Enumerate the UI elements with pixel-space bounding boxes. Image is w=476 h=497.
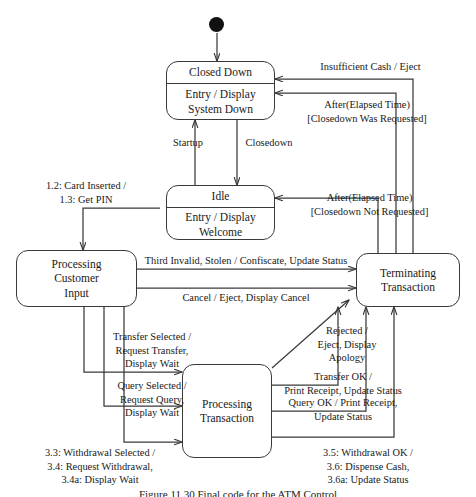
- label-transfer-ok: Transfer OK / Print Receipt, Update Stat…: [272, 370, 414, 397]
- state-terminating-transaction[interactable]: Terminating Transaction: [356, 253, 460, 307]
- figure-caption: Figure 11.30 Final code for the ATM Cont…: [0, 488, 476, 497]
- state-closed-down[interactable]: Closed Down Entry / Display System Down: [166, 61, 275, 120]
- label-transfer-selected-line3: Display Wait: [125, 358, 179, 369]
- initial-state-dot: [209, 17, 224, 32]
- label-card-inserted-line1: 1.2: Card Inserted /: [46, 180, 126, 191]
- label-withdrawal-ok-line1: 3.5: Withdrawal OK /: [323, 447, 413, 458]
- label-closedown-line1: Closedown: [246, 137, 293, 148]
- label-third-invalid-line1: Third Invalid, Stolen / Confiscate, Upda…: [145, 255, 348, 266]
- state-diagram-canvas: Closed Down Entry / Display System Down …: [0, 0, 476, 497]
- label-withdrawal-selected-line3: 3.4a: Display Wait: [61, 474, 138, 485]
- label-withdrawal-selected: 3.3: Withdrawal Selected / 3.4: Request …: [12, 446, 188, 487]
- label-rejected-line2: Eject, Display: [318, 339, 377, 350]
- label-after-elapsed-closedown-requested: After(Elapsed Time) [Closedown Was Reque…: [281, 98, 453, 125]
- tt-line2: Transaction: [381, 281, 435, 293]
- label-withdrawal-ok-line2: 3.6: Dispense Cash,: [327, 461, 410, 472]
- label-rejected: Rejected / Eject, Display Apology: [295, 324, 399, 365]
- state-processing-customer-input[interactable]: Processing Customer Input: [16, 250, 137, 307]
- label-query-ok-line2: Update Status: [314, 411, 372, 422]
- label-rejected-line1: Rejected /: [326, 325, 368, 336]
- wire-card-inserted: [83, 208, 160, 250]
- label-query-selected-line3: Display Wait: [125, 407, 179, 418]
- label-closedown: Closedown: [227, 136, 311, 150]
- label-query-selected-line1: Query Selected /: [117, 380, 186, 391]
- state-terminating-transaction-title: Terminating Transaction: [375, 266, 441, 295]
- state-closed-down-activity-line1: Entry / Display: [185, 88, 255, 100]
- label-card-inserted: 1.2: Card Inserted / 1.3: Get PIN: [12, 179, 160, 206]
- label-transfer-selected: Transfer Selected / Request Transfer, Di…: [88, 330, 216, 371]
- label-aecnr-line1: After(Elapsed Time): [327, 192, 413, 203]
- label-third-invalid: Third Invalid, Stolen / Confiscate, Upda…: [128, 254, 364, 268]
- pci-line1: Processing: [52, 258, 102, 270]
- state-closed-down-title: Closed Down: [167, 62, 274, 83]
- state-idle[interactable]: Idle Entry / Display Welcome: [166, 185, 275, 240]
- label-aecnr-line2: [Closedown Not Requested]: [311, 206, 429, 217]
- label-aecr-line2: [Closedown Was Requested]: [307, 113, 427, 124]
- state-idle-title: Idle: [167, 186, 274, 207]
- pci-line2: Customer: [54, 272, 99, 284]
- label-transfer-selected-line2: Request Transfer,: [116, 345, 189, 356]
- label-startup-line1: Startup: [173, 137, 203, 148]
- tt-line1: Terminating: [380, 267, 436, 279]
- label-insufficient-cash: Insufficient Cash / Eject: [283, 60, 458, 74]
- label-transfer-selected-line1: Transfer Selected /: [113, 331, 191, 342]
- label-aecr-line1: After(Elapsed Time): [324, 99, 410, 110]
- label-query-selected: Query Selected / Request Query, Display …: [88, 379, 216, 420]
- state-idle-activity-line1: Entry / Display: [185, 211, 255, 223]
- label-query-selected-line2: Request Query,: [120, 394, 184, 405]
- label-rejected-line3: Apology: [329, 352, 365, 363]
- state-idle-activity-line2: Welcome: [199, 226, 242, 238]
- label-insufficient-cash-line1: Insufficient Cash / Eject: [320, 61, 421, 72]
- label-after-elapsed-closedown-not-requested: After(Elapsed Time) [Closedown Not Reque…: [282, 191, 457, 218]
- wire-withdrawal-selected: [124, 307, 182, 442]
- state-idle-activity: Entry / Display Welcome: [167, 208, 274, 240]
- label-withdrawal-ok: 3.5: Withdrawal OK / 3.6: Dispense Cash,…: [288, 446, 448, 487]
- label-query-ok: Query OK / Print Receipt, Update Status: [272, 396, 414, 423]
- label-query-ok-line1: Query OK / Print Receipt,: [289, 397, 398, 408]
- label-card-inserted-line2: 1.3: Get PIN: [60, 194, 113, 205]
- label-withdrawal-ok-line3: 3.6a: Update Status: [327, 474, 408, 485]
- label-cancel-eject-line1: Cancel / Eject, Display Cancel: [182, 292, 309, 303]
- label-cancel-eject: Cancel / Eject, Display Cancel: [128, 291, 364, 305]
- label-withdrawal-selected-line2: 3.4: Request Withdrawal,: [47, 461, 153, 472]
- state-processing-customer-input-title: Processing Customer Input: [47, 257, 107, 300]
- state-closed-down-activity-line2: System Down: [188, 103, 253, 115]
- label-startup: Startup: [150, 136, 226, 150]
- label-withdrawal-selected-line1: 3.3: Withdrawal Selected /: [45, 447, 155, 458]
- state-closed-down-activity: Entry / Display System Down: [167, 84, 274, 119]
- label-transfer-ok-line2: Print Receipt, Update Status: [284, 385, 402, 396]
- pci-line3: Input: [64, 287, 88, 299]
- label-transfer-ok-line1: Transfer OK /: [314, 371, 372, 382]
